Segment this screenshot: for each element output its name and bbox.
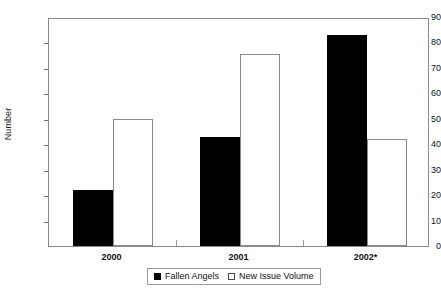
x-axis-category-label: 2000 <box>72 252 152 262</box>
legend-item-label: Fallen Angels <box>165 271 219 281</box>
bar <box>200 137 240 246</box>
legend-item: Fallen Angels <box>154 271 219 281</box>
filled-square-icon <box>154 273 161 280</box>
plot-area <box>48 18 429 247</box>
category-separator-tick <box>176 240 177 246</box>
x-axis-category-label: 2002* <box>326 252 406 262</box>
legend-item: New Issue Volume <box>228 271 314 281</box>
bar <box>240 54 280 246</box>
chart-legend: Fallen AngelsNew Issue Volume <box>147 268 321 285</box>
legend-item-label: New Issue Volume <box>239 271 314 281</box>
bar <box>327 35 367 246</box>
bar <box>73 190 113 246</box>
bar-chart-figure: Number 0102030405060708090 200020012002*… <box>0 0 441 299</box>
bar <box>113 119 153 246</box>
category-separator-tick <box>303 240 304 246</box>
x-axis-category-label: 2001 <box>199 252 279 262</box>
bar <box>367 139 407 246</box>
open-square-icon <box>228 273 235 280</box>
y-axis-title: Number <box>3 94 13 154</box>
